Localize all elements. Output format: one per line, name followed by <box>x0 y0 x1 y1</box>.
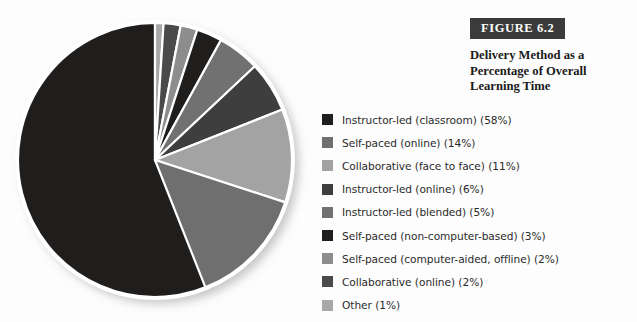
legend-color-swatch <box>322 114 333 125</box>
legend-color-swatch <box>322 300 333 311</box>
pie-slices-group <box>18 23 292 297</box>
legend-item: Instructor-led (blended) (5%) <box>320 201 630 224</box>
pie-chart-figure <box>0 0 320 322</box>
legend-item-label: Other (1%) <box>342 299 400 311</box>
legend-item-label: Instructor-led (online) (6%) <box>342 183 484 195</box>
figure-number-badge: FIGURE 6.2 <box>470 18 565 39</box>
legend-item-label: Self-paced (non-computer-based) (3%) <box>342 230 546 242</box>
chart-legend: Instructor-led (classroom) (58%)Self-pac… <box>320 108 630 317</box>
pie-chart-svg <box>0 0 320 322</box>
legend-item: Self-paced (non-computer-based) (3%) <box>320 224 630 247</box>
legend-color-swatch <box>322 160 333 171</box>
legend-item-label: Instructor-led (classroom) (58%) <box>342 114 512 126</box>
legend-item: Instructor-led (online) (6%) <box>320 178 630 201</box>
legend-item: Instructor-led (classroom) (58%) <box>320 108 630 131</box>
legend-item-label: Collaborative (face to face) (11%) <box>342 160 520 172</box>
figure-caption-title: Delivery Method as a Percentage of Overa… <box>470 48 602 95</box>
legend-item: Other (1%) <box>320 294 630 317</box>
legend-item: Self-paced (computer-aided, offline) (2%… <box>320 247 630 270</box>
legend-item-label: Self-paced (computer-aided, offline) (2%… <box>342 253 559 265</box>
legend-color-swatch <box>322 253 333 264</box>
legend-item: Self-paced (online) (14%) <box>320 131 630 154</box>
legend-item-label: Collaborative (online) (2%) <box>342 276 483 288</box>
legend-color-swatch <box>322 276 333 287</box>
figure-caption-block: FIGURE 6.2 Delivery Method as a Percenta… <box>470 18 630 95</box>
legend-item: Collaborative (face to face) (11%) <box>320 154 630 177</box>
legend-item-label: Instructor-led (blended) (5%) <box>342 206 494 218</box>
legend-color-swatch <box>322 137 333 148</box>
legend-color-swatch <box>322 207 333 218</box>
legend-item: Collaborative (online) (2%) <box>320 270 630 293</box>
legend-color-swatch <box>322 184 333 195</box>
legend-item-label: Self-paced (online) (14%) <box>342 137 475 149</box>
legend-color-swatch <box>322 230 333 241</box>
